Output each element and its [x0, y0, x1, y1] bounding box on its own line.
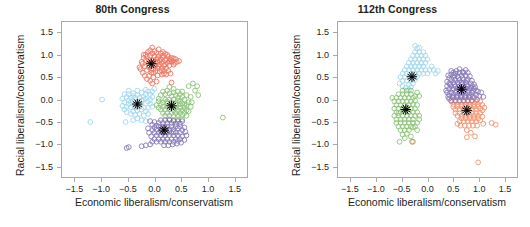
data-point: [154, 79, 159, 84]
plot-canvas-right: [338, 22, 517, 177]
data-point: [126, 88, 131, 93]
y-tick-label: 1.5: [25, 27, 53, 37]
data-point: [481, 121, 486, 126]
x-tick-label: 1.0: [202, 184, 215, 194]
data-point: [493, 122, 498, 127]
y-tick: [333, 77, 337, 78]
panel-80th-congress: 80th Congress Economic liberalism/conser…: [0, 0, 265, 227]
y-tick: [57, 144, 61, 145]
cluster-green: [390, 88, 422, 144]
x-tick-label: −1.0: [367, 184, 385, 194]
x-axis-title-right: Economic liberalism/conservatism: [348, 196, 506, 208]
cluster-red: [137, 45, 181, 86]
data-point: [100, 97, 105, 102]
y-tick: [333, 100, 337, 101]
data-point: [220, 115, 225, 120]
y-tick-label: 0.0: [25, 95, 53, 105]
data-point: [131, 118, 136, 123]
data-point: [188, 104, 193, 109]
data-point: [397, 81, 402, 86]
x-tick-label: 0.0: [148, 184, 161, 194]
x-tick-label: 0.5: [447, 184, 460, 194]
cluster-lightblue: [88, 86, 157, 124]
y-tick: [57, 55, 61, 56]
data-point: [147, 130, 152, 135]
scatter-points-layer: [62, 22, 247, 177]
x-tick: [505, 178, 506, 182]
y-tick: [57, 100, 61, 101]
x-tick: [101, 178, 102, 182]
plot-frame-left: [61, 21, 248, 178]
y-tick-label: −1.5: [25, 162, 53, 172]
x-tick: [235, 178, 236, 182]
plot-frame-right: [337, 21, 518, 178]
x-tick-label: −0.5: [119, 184, 137, 194]
cluster-lightblue: [397, 43, 440, 92]
x-tick: [155, 178, 156, 182]
y-tick-label: 1.0: [25, 50, 53, 60]
data-point: [189, 100, 194, 105]
y-tick-label: −0.5: [25, 117, 53, 127]
y-tick-label: 0.0: [301, 95, 329, 105]
data-point: [196, 93, 201, 98]
data-point: [184, 93, 189, 98]
y-tick: [333, 55, 337, 56]
x-tick-label: 0.0: [421, 184, 434, 194]
y-tick-label: −0.5: [301, 117, 329, 127]
y-tick-label: 1.5: [301, 27, 329, 37]
data-point: [167, 85, 172, 90]
y-tick: [333, 32, 337, 33]
x-tick-label: 1.5: [499, 184, 512, 194]
data-point: [397, 139, 402, 144]
x-tick: [350, 178, 351, 182]
x-axis-title-left: Economic liberalism/conservatism: [75, 196, 233, 208]
y-tick-label: 0.5: [25, 72, 53, 82]
panel-title-right: 112th Congress: [265, 3, 530, 15]
data-point: [123, 120, 128, 125]
x-tick: [128, 178, 129, 182]
x-tick: [428, 178, 429, 182]
figure-root: 80th Congress Economic liberalism/conser…: [0, 0, 530, 227]
y-tick-label: 0.5: [301, 72, 329, 82]
x-tick-label: −1.5: [341, 184, 359, 194]
x-tick: [181, 178, 182, 182]
data-point: [473, 134, 478, 139]
data-point: [469, 130, 474, 135]
cluster-green: [154, 81, 225, 123]
cluster-orange: [410, 99, 499, 165]
x-tick-label: −1.5: [65, 184, 83, 194]
x-tick: [208, 178, 209, 182]
x-tick-label: −1.0: [92, 184, 110, 194]
data-point: [476, 160, 481, 165]
panel-112th-congress: 112th Congress Economic liberalism/conse…: [265, 0, 530, 227]
x-tick-label: 0.5: [175, 184, 188, 194]
y-tick: [57, 167, 61, 168]
scatter-points-layer: [338, 22, 517, 177]
y-tick: [57, 122, 61, 123]
x-tick: [479, 178, 480, 182]
x-tick: [402, 178, 403, 182]
x-tick: [453, 178, 454, 182]
y-tick: [333, 167, 337, 168]
panel-title-left: 80th Congress: [0, 3, 265, 15]
data-point: [464, 135, 469, 140]
cluster-purple: [444, 67, 486, 103]
y-tick: [57, 77, 61, 78]
data-point: [193, 88, 198, 93]
x-tick-label: 1.5: [228, 184, 241, 194]
y-tick-label: −1.5: [301, 162, 329, 172]
x-tick-label: 1.0: [473, 184, 486, 194]
y-tick-label: 1.0: [301, 50, 329, 60]
x-tick-label: −0.5: [393, 184, 411, 194]
data-point: [88, 120, 93, 125]
x-tick: [74, 178, 75, 182]
y-tick: [333, 122, 337, 123]
y-tick-label: −1.0: [25, 139, 53, 149]
y-tick: [333, 144, 337, 145]
x-tick: [376, 178, 377, 182]
data-point: [146, 126, 151, 131]
y-tick: [57, 32, 61, 33]
y-tick-label: −1.0: [301, 139, 329, 149]
plot-canvas-left: [62, 22, 247, 177]
data-point: [409, 134, 414, 139]
